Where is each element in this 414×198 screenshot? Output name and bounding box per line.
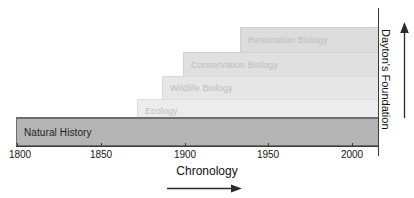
bar-label-ecology: Ecology: [138, 106, 178, 116]
bar-label-natural-history: Natural History: [17, 127, 92, 138]
x-tick-2000: [352, 143, 353, 147]
bar-restoration-biology: Restoration Biology: [240, 27, 379, 53]
arrow-right-icon: [167, 184, 242, 193]
x-tick-label-1850: 1850: [90, 149, 112, 160]
x-tick-label-1800: 1800: [9, 149, 31, 160]
x-tick-label-1900: 1900: [174, 149, 196, 160]
y-axis-title: Dayton's Foundation: [378, 8, 394, 150]
bar-label-wildlife-biology: Wildlife Biology: [163, 83, 233, 93]
bar-conservation-biology: Conservation Biology: [183, 52, 379, 77]
x-tick-1800: [17, 143, 18, 147]
bar-label-conservation-biology: Conservation Biology: [184, 60, 278, 70]
bar-label-restoration-biology: Restoration Biology: [241, 35, 328, 45]
arrow-up-icon: [399, 22, 410, 118]
x-tick-label-2000: 2000: [341, 149, 363, 160]
x-axis-line: [16, 146, 379, 147]
x-tick-1850: [101, 143, 102, 147]
bar-natural-history: Natural History: [16, 117, 379, 146]
x-tick-1950: [268, 143, 269, 147]
x-axis-title: Chronology: [0, 164, 414, 178]
y-axis-title-text: Dayton's Foundation: [380, 29, 392, 130]
x-tick-label-1950: 1950: [257, 149, 279, 160]
chronology-staircase-chart: Restoration Biology Conservation Biology…: [0, 0, 414, 198]
bar-wildlife-biology: Wildlife Biology: [162, 76, 379, 100]
x-tick-1900: [185, 143, 186, 147]
